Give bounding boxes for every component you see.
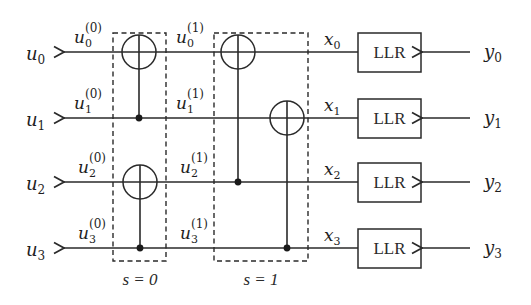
input-y0: y0 bbox=[483, 41, 502, 65]
wires bbox=[64, 52, 358, 248]
stage-0-caption: s = 0 bbox=[122, 270, 158, 289]
input-arrows bbox=[422, 52, 470, 248]
label-x1: x1 bbox=[324, 95, 341, 118]
stage-0-labels: u0(0) u1(0) u2(0) u3(0) bbox=[74, 21, 106, 246]
stage-1-box bbox=[214, 33, 308, 261]
node-dot bbox=[284, 245, 291, 252]
stage-1-butterflies bbox=[221, 35, 304, 251]
output-u0: u0 bbox=[26, 43, 45, 67]
llr-label: LLR bbox=[373, 239, 406, 258]
llr-label: LLR bbox=[373, 43, 406, 62]
output-u3: u3 bbox=[26, 239, 45, 263]
input-y3: y3 bbox=[483, 237, 502, 261]
label-u1-1: u1(1) bbox=[176, 87, 204, 116]
node-dot bbox=[235, 179, 242, 186]
input-y1: y1 bbox=[483, 107, 502, 131]
stage-0-butterflies bbox=[122, 35, 157, 251]
label-x2: x2 bbox=[324, 159, 341, 182]
label-u0-1: u0(1) bbox=[176, 21, 204, 50]
llr-label: LLR bbox=[373, 173, 406, 192]
polar-decoder-diagram: LLR LLR LLR LLR u0 u1 u2 u3 u0(0) u1(0) … bbox=[0, 0, 531, 305]
x-labels: x0 x1 x2 x3 bbox=[324, 29, 341, 248]
label-x3: x3 bbox=[324, 225, 341, 248]
output-u2: u2 bbox=[26, 173, 45, 197]
stage-1-caption: s = 1 bbox=[243, 270, 278, 289]
input-labels: y0 y1 y2 y3 bbox=[483, 41, 502, 261]
label-u2-1: u2(1) bbox=[180, 151, 208, 180]
output-labels: u0 u1 u2 u3 bbox=[26, 43, 45, 263]
input-y2: y2 bbox=[483, 171, 502, 195]
llr-blocks: LLR LLR LLR LLR bbox=[358, 33, 421, 268]
llr-label: LLR bbox=[373, 109, 406, 128]
label-u0-0: u0(0) bbox=[74, 21, 102, 50]
label-u1-0: u1(0) bbox=[74, 87, 102, 116]
label-u3-1: u3(1) bbox=[180, 217, 208, 246]
stage-1-labels: u0(1) u1(1) u2(1) u3(1) bbox=[176, 21, 208, 246]
label-u3-0: u3(0) bbox=[78, 217, 106, 246]
node-dot bbox=[137, 245, 144, 252]
output-u1: u1 bbox=[26, 109, 45, 133]
node-dot bbox=[136, 115, 143, 122]
label-u2-0: u2(0) bbox=[78, 151, 106, 180]
label-x0: x0 bbox=[324, 29, 341, 52]
